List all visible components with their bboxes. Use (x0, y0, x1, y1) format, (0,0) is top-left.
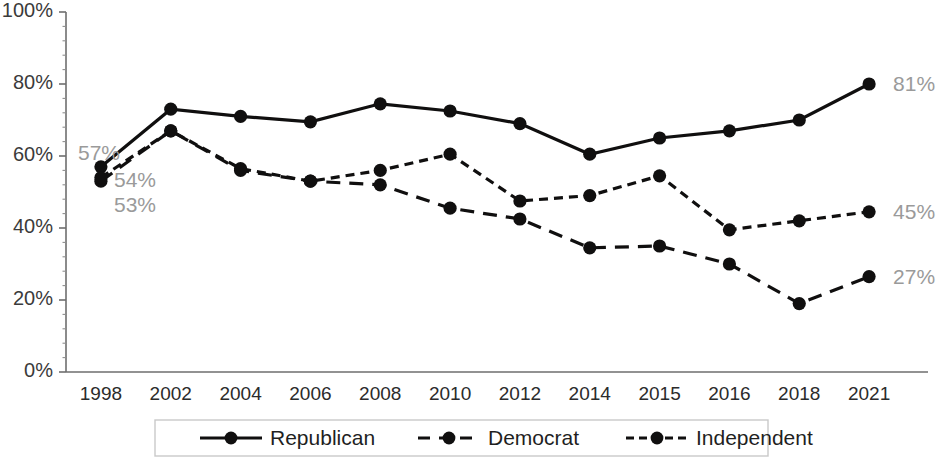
point-value-labels: 57%54%53%81%45%27% (78, 72, 935, 288)
y-axis-tick-label: 0% (24, 359, 53, 381)
data-point-marker (653, 169, 666, 182)
x-axis-tick-label: 2014 (569, 383, 612, 404)
data-point-marker (862, 270, 875, 283)
y-axis-tick-label: 80% (13, 71, 53, 93)
legend-label: Independent (696, 426, 813, 449)
y-axis (59, 12, 66, 372)
data-point-marker (793, 113, 806, 126)
data-point-marker (862, 77, 875, 90)
x-axis-tick-label: 2018 (778, 383, 820, 404)
data-point-marker (793, 214, 806, 227)
data-point-marker (443, 202, 456, 215)
data-point-marker (723, 257, 736, 270)
x-axis-tick-label: 2008 (359, 383, 401, 404)
x-axis-tick-label: 1998 (80, 383, 122, 404)
data-point-marker (374, 164, 387, 177)
y-axis-tick-label: 20% (13, 287, 53, 309)
data-point-marker (513, 194, 526, 207)
data-point-marker (374, 97, 387, 110)
point-label-right: 81% (893, 72, 935, 95)
data-point-marker (234, 110, 247, 123)
point-label-left: 54% (114, 168, 156, 191)
point-label-right: 45% (893, 200, 935, 223)
data-point-marker (723, 124, 736, 137)
x-axis-tick-label: 2021 (848, 383, 890, 404)
y-axis-tick-labels: 0%20%40%60%80%100% (2, 0, 53, 381)
x-axis-tick-label: 2004 (219, 383, 262, 404)
legend-label: Democrat (488, 426, 579, 449)
data-point-marker (583, 148, 596, 161)
data-point-marker (234, 162, 247, 175)
x-axis-tick-labels: 1998200220042006200820102012201420152016… (80, 383, 890, 404)
data-point-marker (653, 239, 666, 252)
data-point-marker (374, 178, 387, 191)
data-point-marker (304, 115, 317, 128)
data-point-marker (723, 223, 736, 236)
data-point-marker (513, 212, 526, 225)
chart-container: 0%20%40%60%80%100% 199820022004200620082… (0, 0, 950, 458)
series-republican (94, 77, 875, 173)
data-point-marker (513, 117, 526, 130)
line-chart: 0%20%40%60%80%100% 199820022004200620082… (0, 0, 950, 458)
legend-marker-swatch (225, 432, 238, 445)
x-axis-tick-label: 2012 (499, 383, 541, 404)
x-axis-tick-label: 2002 (150, 383, 192, 404)
y-axis-tick-label: 100% (2, 0, 53, 21)
x-axis-tick-label: 2015 (638, 383, 680, 404)
data-point-marker (653, 131, 666, 144)
data-point-marker (583, 189, 596, 202)
data-point-marker (164, 124, 177, 137)
point-label-left: 53% (114, 193, 156, 216)
point-label-left: 57% (78, 141, 120, 164)
data-point-marker (862, 205, 875, 218)
x-axis-tick-label: 2006 (289, 383, 331, 404)
y-axis-tick-label: 60% (13, 143, 53, 165)
chart-legend: RepublicanDemocratIndependent (155, 420, 813, 456)
x-axis-tick-label: 2016 (708, 383, 750, 404)
data-point-marker (443, 104, 456, 117)
y-axis-tick-label: 40% (13, 215, 53, 237)
legend-marker-swatch (651, 432, 664, 445)
series-independent (94, 124, 875, 236)
series-plot-area (94, 77, 875, 310)
data-point-marker (94, 171, 107, 184)
legend-marker-swatch (443, 432, 456, 445)
data-point-marker (793, 297, 806, 310)
legend-label: Republican (270, 426, 375, 449)
series-democrat (94, 124, 875, 310)
x-axis-tick-label: 2010 (429, 383, 471, 404)
data-point-marker (164, 103, 177, 116)
data-point-marker (443, 148, 456, 161)
data-point-marker (304, 175, 317, 188)
point-label-right: 27% (893, 265, 935, 288)
data-point-marker (583, 241, 596, 254)
